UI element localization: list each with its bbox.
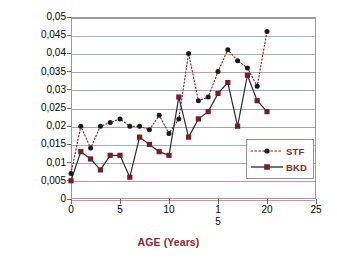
x-tick-mark [120, 199, 121, 204]
x-tick-mark [316, 199, 317, 204]
y-tick-label: 0,025 [6, 102, 66, 113]
y-tick-mark [67, 17, 71, 18]
gridline [72, 109, 315, 110]
y-tick-mark [67, 180, 71, 181]
y-tick-label: 0,02 [6, 120, 66, 131]
x-tick-label: 10 [149, 204, 189, 216]
casualty-rate-chart: CASUALTY RATE 00,0050,010,0150,020,0250,… [0, 0, 337, 267]
y-tick-label: 0,04 [6, 47, 66, 58]
x-tick-label: 5 [100, 204, 140, 216]
gridline [72, 54, 315, 55]
y-tick-label: 0,035 [6, 66, 66, 77]
gridline [72, 72, 315, 73]
x-tick-label: 0 [51, 204, 91, 216]
x-tick-mark [169, 199, 170, 204]
gridline [72, 90, 315, 91]
y-tick-label: 0,03 [6, 84, 66, 95]
x-tick-mark [218, 199, 219, 204]
gridline [72, 200, 315, 201]
legend-label-bkd: BKD [284, 162, 307, 173]
x-tick-label: 25 [296, 204, 336, 216]
y-tick-mark [67, 35, 71, 36]
x-tick-label: 15 [214, 204, 222, 228]
legend-item-stf: STF [250, 143, 310, 159]
x-tick-mark [267, 199, 268, 204]
y-tick-mark [67, 108, 71, 109]
legend-label-stf: STF [284, 146, 305, 157]
gridline [72, 181, 315, 182]
legend-swatch-stf-icon [250, 144, 284, 158]
y-tick-label: 0,01 [6, 157, 66, 168]
y-tick-label: 0,045 [6, 29, 66, 40]
y-tick-mark [67, 162, 71, 163]
x-axis-title: AGE (Years) [0, 236, 337, 248]
y-tick-mark [67, 89, 71, 90]
gridline [72, 18, 315, 19]
y-tick-label: 0 [6, 193, 66, 204]
y-tick-mark [67, 71, 71, 72]
y-tick-label: 0,015 [6, 138, 66, 149]
legend: STF BKD [246, 139, 314, 179]
x-tick-mark [71, 199, 72, 204]
y-tick-mark [67, 126, 71, 127]
gridline [72, 36, 315, 37]
legend-item-bkd: BKD [250, 159, 310, 175]
y-tick-mark [67, 53, 71, 54]
x-tick-label: 20 [247, 204, 287, 216]
y-tick-label: 0,005 [6, 175, 66, 186]
legend-swatch-bkd-icon [250, 160, 284, 174]
y-tick-label: 0,05 [6, 11, 66, 22]
y-tick-mark [67, 144, 71, 145]
gridline [72, 127, 315, 128]
